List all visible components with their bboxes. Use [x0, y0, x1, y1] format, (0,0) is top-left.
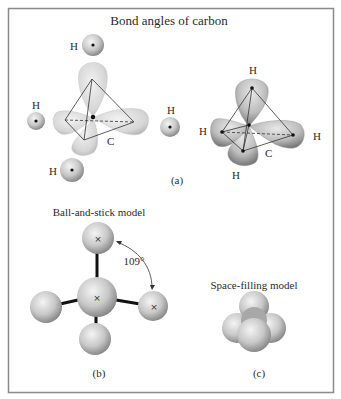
arrowhead-icon	[150, 285, 155, 290]
hydrogen-nucleus-dot	[70, 168, 73, 171]
panel-a-label: (a)	[171, 174, 184, 187]
hydrogen-nucleus-dot	[250, 86, 254, 90]
carbon-label: C	[265, 147, 272, 159]
orbital-lobe-top	[236, 79, 269, 126]
space-filling-title: Space-filling model	[210, 279, 297, 291]
panel-a-right-bonded-orbitals: C H H H H	[199, 64, 321, 181]
hydrogen-ball-bottom	[79, 323, 111, 355]
hydrogen-label-top: H	[70, 40, 78, 52]
atom-center-marker: ×	[150, 302, 158, 312]
carbon-label: C	[107, 135, 114, 147]
bond-angles-figure: Bond angles of carbon C H H H	[0, 0, 341, 399]
atom-center-marker: ×	[93, 293, 101, 303]
hydrogen-nucleus-dot	[34, 119, 37, 122]
atom-center-marker: ×	[94, 234, 102, 244]
hydrogen-nucleus-dot	[241, 149, 245, 153]
panel-c-space-filling-model: Space-filling model	[210, 279, 297, 352]
hydrogen-nucleus-dot	[291, 133, 295, 137]
carbon-nucleus-dot	[91, 115, 95, 119]
figure-frame	[9, 9, 334, 393]
hydrogen-label-bottom: H	[232, 169, 240, 181]
panel-b-ball-and-stick-model: Ball-and-stick model × × × 109°	[30, 206, 168, 355]
hydrogen-sphere-front	[237, 318, 271, 352]
hydrogen-label-top: H	[249, 64, 257, 76]
hydrogen-nucleus-dot	[168, 125, 171, 128]
ball-and-stick-title: Ball-and-stick model	[53, 206, 146, 218]
hydrogen-label-right: H	[313, 130, 321, 142]
panel-c-label: (c)	[253, 367, 266, 380]
carbon-nucleus-dot	[247, 123, 251, 127]
arrowhead-icon	[116, 241, 122, 245]
hydrogen-label-left: H	[32, 99, 40, 111]
hydrogen-ball-left	[30, 291, 62, 323]
hydrogen-nucleus-dot	[91, 43, 94, 46]
bond-angle-label: 109°	[124, 255, 145, 267]
orbital-lobe-right	[249, 120, 304, 148]
figure-title: Bond angles of carbon	[110, 13, 228, 28]
panel-b-label: (b)	[93, 367, 106, 380]
orbital-lobe-top	[79, 63, 108, 117]
panel-a-left-sp3-orbitals: C H H H H	[27, 34, 180, 182]
hydrogen-nucleus-dot	[220, 130, 224, 134]
hydrogen-label-left: H	[199, 125, 207, 137]
hydrogen-label-bottom: H	[49, 165, 57, 177]
hydrogen-label-right: H	[167, 104, 175, 116]
